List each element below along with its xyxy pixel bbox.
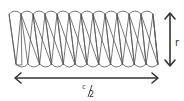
width-label: c 2	[82, 83, 94, 99]
height-arrow	[165, 13, 175, 66]
sector-down	[9, 11, 22, 65]
width-label-denominator: 2	[89, 90, 94, 99]
width-label-numerator: c	[82, 83, 86, 91]
sector-rectangle-diagram: r c 2	[0, 0, 184, 101]
height-label: r	[175, 37, 180, 48]
sectors-group	[9, 11, 158, 67]
width-arrow	[15, 73, 158, 83]
left-edge	[9, 14, 16, 64]
